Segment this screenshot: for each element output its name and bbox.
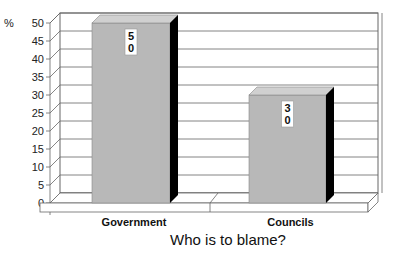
y-tick-label: 45 (32, 35, 44, 47)
y-tick-label: 10 (32, 161, 44, 173)
y-tick-label: 25 (32, 107, 44, 119)
bar-chart: 05101520253035404550%50Government30Counc… (0, 0, 395, 253)
y-unit-label: % (4, 17, 14, 29)
y-tick-label: 40 (32, 53, 44, 65)
y-tick-label: 35 (32, 71, 44, 83)
category-label: Government (102, 216, 167, 228)
data-label: 0 (128, 42, 134, 54)
category-label: Councils (267, 216, 313, 228)
y-tick-label: 15 (32, 143, 44, 155)
y-tick-label: 20 (32, 125, 44, 137)
y-tick-label: 5 (38, 179, 44, 191)
y-tick-label: 30 (32, 89, 44, 101)
data-label: 5 (128, 30, 134, 42)
data-label: 3 (284, 102, 290, 114)
x-axis-title: Who is to blame? (170, 231, 286, 248)
data-label: 0 (284, 114, 290, 126)
y-tick-label: 50 (32, 17, 44, 29)
